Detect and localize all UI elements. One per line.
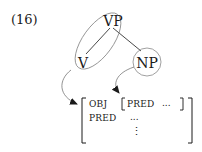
- attr-obj-pred: PRED: [127, 100, 154, 109]
- example-number: (16): [11, 13, 38, 26]
- value-obj-pred: ...: [162, 99, 171, 108]
- vertical-ellipsis: ⋮: [131, 126, 142, 137]
- attr-obj: OBJ: [89, 100, 107, 109]
- c-structure-f-structure-diagram: (16) VP V NP OBJ PRED ... PRED ... ⋮: [0, 0, 202, 152]
- arrow-np-to-obj: [116, 67, 134, 93]
- value-pred: ...: [130, 113, 139, 122]
- outer-right-bracket: [188, 98, 192, 143]
- edge-vp-v: [86, 28, 110, 54]
- inner-right-bracket: [180, 98, 183, 110]
- node-vp: VP: [103, 14, 123, 28]
- arrow-v-to-fstructure: [62, 70, 77, 104]
- attr-pred: PRED: [89, 114, 116, 123]
- edge-vp-np: [113, 28, 141, 51]
- node-v: V: [78, 56, 88, 70]
- inner-left-bracket: [122, 98, 125, 110]
- node-np: NP: [136, 56, 158, 70]
- outer-left-bracket: [82, 98, 86, 143]
